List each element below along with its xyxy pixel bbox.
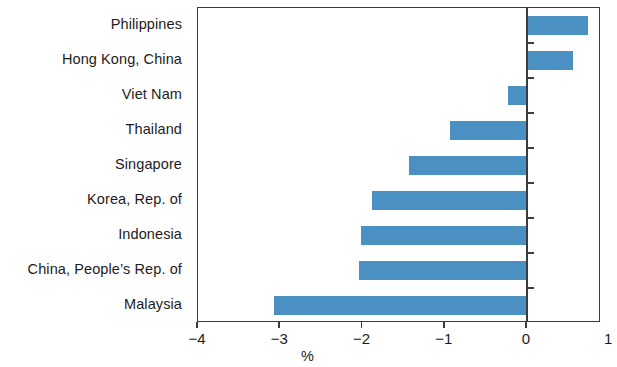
- bar-malaysia: [274, 296, 526, 315]
- bar-viet-nam: [508, 86, 527, 105]
- x-tick: [361, 322, 363, 328]
- x-axis-title-text: %: [301, 348, 314, 364]
- category-label-thailand: Thailand: [0, 122, 182, 137]
- plot-inner: [198, 8, 599, 321]
- zero-line-tick: [528, 42, 534, 44]
- zero-axis-line: [526, 8, 528, 321]
- category-label-malaysia: Malaysia: [0, 297, 182, 312]
- category-label-philippines: Philippines: [0, 17, 182, 32]
- category-label-indonesia: Indonesia: [0, 227, 182, 242]
- x-tick-label: −2: [341, 330, 381, 348]
- x-tick-label: 0: [506, 330, 546, 348]
- zero-line-tick: [528, 217, 534, 219]
- zero-line-tick: [528, 287, 534, 289]
- category-label-korea-rep-of: Korea, Rep. of: [0, 192, 182, 207]
- x-tick-label: −3: [259, 330, 299, 348]
- zero-line-tick: [528, 147, 534, 149]
- bar-thailand: [450, 121, 527, 140]
- bar-hong-kong-china: [527, 51, 573, 70]
- zero-line-tick: [528, 112, 534, 114]
- zero-line-tick: [528, 77, 534, 79]
- bar-china-peoples-rep-of: [359, 261, 527, 280]
- bar-singapore: [409, 156, 527, 175]
- category-label-hong-kong-china: Hong Kong, China: [0, 52, 182, 67]
- category-label-viet-nam: Viet Nam: [0, 87, 182, 102]
- x-tick-label: −1: [424, 330, 464, 348]
- category-label-china-peoples-rep-of: China, People’s Rep. of: [0, 262, 182, 277]
- x-tick: [196, 322, 198, 328]
- category-axis-labels: Philippines Hong Kong, China Viet Nam Th…: [0, 7, 190, 322]
- category-label-singapore: Singapore: [0, 157, 182, 172]
- zero-line-tick: [528, 182, 534, 184]
- bar-korea-rep-of: [372, 191, 527, 210]
- x-axis-title: %: [0, 348, 611, 364]
- x-tick: [443, 322, 445, 328]
- plot-area: [197, 7, 600, 322]
- x-tick-label: −4: [177, 330, 217, 348]
- x-tick: [525, 322, 527, 328]
- zero-line-tick: [528, 252, 534, 254]
- x-tick-label: 1: [588, 330, 617, 348]
- bar-indonesia: [361, 226, 527, 245]
- x-tick: [278, 322, 280, 328]
- bar-philippines: [527, 16, 588, 35]
